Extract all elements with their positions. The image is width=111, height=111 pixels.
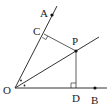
right-angle-mark-c: [42, 36, 48, 40]
label-b: B: [91, 94, 98, 106]
point-b: [93, 86, 96, 89]
label-d: D: [72, 92, 80, 104]
diagram-canvas: O A B P C D: [0, 0, 111, 111]
label-c: C: [33, 25, 40, 37]
label-a: A: [40, 7, 48, 19]
label-o: O: [3, 84, 11, 96]
point-p: [74, 49, 77, 52]
angle-mark-dot-lower: [24, 85, 26, 87]
label-p: P: [72, 35, 78, 47]
right-angle-mark-d: [71, 83, 76, 88]
point-a: [50, 13, 53, 16]
angle-bisector-diagram: O A B P C D: [0, 0, 111, 111]
angle-mark-dot-upper: [20, 80, 22, 82]
